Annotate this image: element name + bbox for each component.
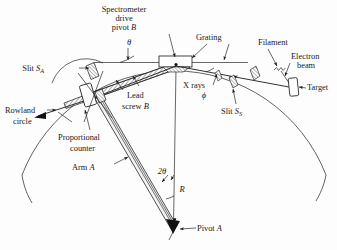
target-label: Target bbox=[307, 83, 329, 92]
electron-beam-label-line2: beam bbox=[297, 61, 316, 70]
rowland-circle-arc bbox=[22, 71, 326, 175]
target-rectangle-icon bbox=[288, 78, 299, 97]
figure-canvas: Spectrometer drive pivot B Grating Filam… bbox=[0, 0, 337, 250]
arm-a-shaft bbox=[95, 96, 177, 230]
filament-label: Filament bbox=[258, 38, 288, 47]
rowland-circle-arc-right-tail bbox=[316, 175, 326, 201]
lead-screw-label-line2: screw B bbox=[122, 102, 149, 111]
exit-ray-arrow-icon bbox=[34, 112, 46, 119]
theta-symbol-label: θ bbox=[127, 37, 132, 47]
radius-symbol-label: R bbox=[178, 184, 185, 194]
grating-label: Grating bbox=[196, 33, 222, 42]
slit-sa-label: Slit SA bbox=[22, 64, 44, 74]
proportional-counter-label-line2: counter bbox=[70, 144, 95, 153]
rowland-circle-label-line1: Rowland bbox=[5, 106, 36, 115]
electron-beam-line bbox=[281, 71, 289, 83]
spectrometer-drive-label-line1: Spectrometer bbox=[102, 5, 147, 14]
phi-angle-arc bbox=[206, 68, 214, 72]
radius-line-R bbox=[174, 68, 177, 226]
x-rays-label: X rays bbox=[183, 81, 205, 90]
rowland-circle-arc-left-tail bbox=[22, 175, 32, 203]
phi-symbol-label: ϕ bbox=[202, 90, 207, 100]
pivot-b-point bbox=[174, 63, 177, 66]
electron-beam-label-line1: Electron bbox=[291, 52, 320, 61]
spectrometer-drive-label-line2: drive bbox=[115, 14, 132, 23]
pivot-a-joint bbox=[166, 219, 180, 234]
proportional-counter-label-line1: Proportional bbox=[58, 133, 101, 142]
slit-block-secondary-icon bbox=[215, 70, 222, 81]
pivot-a-label: Pivot A bbox=[197, 224, 223, 233]
theta-angle-arc bbox=[120, 56, 134, 63]
slit-ss-label: Slit SS bbox=[221, 107, 242, 117]
lead-screw-label-line1: Lead bbox=[127, 91, 145, 100]
spectrometer-drive-pivot-b-label: pivot B bbox=[112, 23, 136, 32]
filament-icon bbox=[274, 68, 286, 71]
slit-block-icon bbox=[250, 66, 260, 80]
two-theta-angle-arc bbox=[166, 196, 174, 199]
rowland-circle-label-line2: circle bbox=[13, 117, 32, 126]
arm-a-label: Arm A bbox=[72, 163, 95, 172]
xray-spectrometer-figure: Spectrometer drive pivot B Grating Filam… bbox=[0, 0, 337, 250]
two-theta-symbol-label: 2θ bbox=[158, 166, 167, 176]
